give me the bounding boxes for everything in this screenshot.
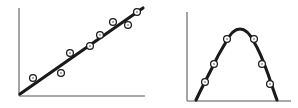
data-point bbox=[267, 81, 274, 88]
linear-scatter-plot bbox=[0, 0, 149, 108]
data-point bbox=[30, 75, 37, 82]
data-point bbox=[87, 43, 94, 50]
panel-linear-relationship bbox=[0, 0, 149, 108]
data-point bbox=[134, 9, 141, 16]
data-point bbox=[202, 79, 209, 86]
data-points-right bbox=[202, 36, 274, 88]
data-point bbox=[58, 70, 65, 77]
panel-curvilinear-relationship bbox=[149, 0, 298, 108]
data-point bbox=[251, 36, 258, 43]
linear-trend-line bbox=[20, 8, 143, 94]
data-point bbox=[211, 61, 218, 68]
data-point bbox=[67, 50, 74, 57]
data-point bbox=[97, 32, 104, 39]
data-point bbox=[259, 61, 266, 68]
two-panel-scatter-figure bbox=[0, 0, 298, 108]
data-points-left bbox=[30, 9, 141, 82]
data-point bbox=[224, 36, 231, 43]
data-point bbox=[125, 22, 132, 29]
curvilinear-scatter-plot bbox=[149, 0, 298, 108]
data-point bbox=[110, 19, 117, 26]
